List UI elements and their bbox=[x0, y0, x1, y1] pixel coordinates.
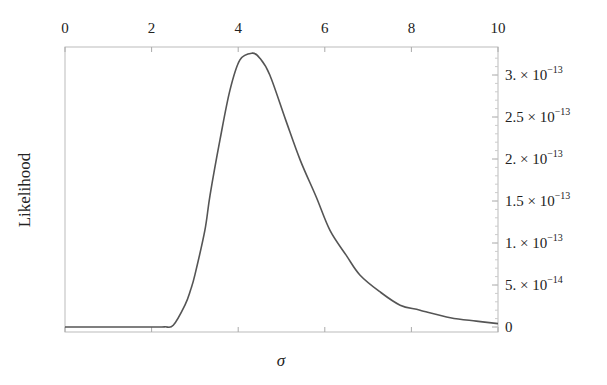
x-axis-label: σ bbox=[277, 351, 286, 370]
plot-frame bbox=[65, 47, 498, 332]
y-tick-label: 1. × 10−13 bbox=[505, 232, 563, 251]
y-tick-label: 3. × 10−13 bbox=[505, 64, 563, 83]
y-tick-label: 1.5 × 10−13 bbox=[505, 190, 570, 209]
x-tick-label: 10 bbox=[491, 20, 506, 36]
y-tick-label: 2.5 × 10−13 bbox=[505, 106, 570, 125]
likelihood-curve bbox=[65, 53, 498, 327]
x-tick-label: 6 bbox=[321, 20, 329, 36]
y-tick-label: 2. × 10−13 bbox=[505, 148, 563, 167]
likelihood-chart: 0246810 05. × 10−141. × 10−131.5 × 10−13… bbox=[0, 0, 607, 385]
x-tick-label: 4 bbox=[234, 20, 242, 36]
y-tick-label: 0 bbox=[505, 319, 513, 335]
y-tick-label: 5. × 10−14 bbox=[505, 274, 563, 293]
y-axis-ticks: 05. × 10−141. × 10−131.5 × 10−132. × 10−… bbox=[492, 58, 570, 335]
x-axis-ticks: 0246810 bbox=[61, 20, 505, 332]
x-tick-label: 8 bbox=[408, 20, 416, 36]
y-axis-label: Likelihood bbox=[15, 152, 34, 227]
x-tick-label: 2 bbox=[148, 20, 156, 36]
x-tick-label: 0 bbox=[61, 20, 69, 36]
